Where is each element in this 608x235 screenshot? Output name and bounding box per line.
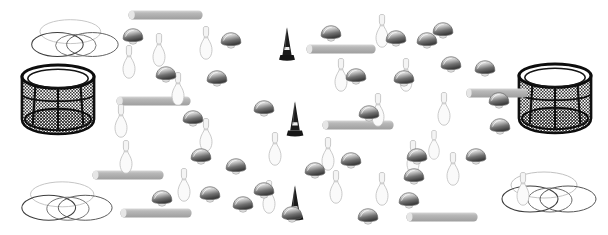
bowling-pin-icon: [111, 104, 131, 138]
mesh-basket-icon: [512, 62, 598, 136]
mushroom-cap-icon: [225, 158, 247, 175]
bowling-pin-icon: [149, 33, 169, 67]
mushroom-cap-icon: [320, 25, 342, 42]
mushroom-cap-icon: [304, 162, 326, 179]
mushroom-cap-icon: [232, 196, 254, 213]
mushroom-cap-icon: [122, 28, 144, 45]
bowling-pin-icon: [326, 170, 346, 204]
mushroom-cap-icon: [358, 105, 380, 122]
mushroom-cap-icon: [253, 100, 275, 117]
mushroom-cap-icon: [385, 30, 407, 47]
bowling-pin-icon: [265, 132, 285, 166]
mesh-basket-icon: [16, 63, 100, 137]
bowling-pin-icon: [174, 168, 194, 202]
mushroom-cap-icon: [190, 148, 212, 165]
mushroom-cap-icon: [488, 92, 510, 109]
mushroom-cap-icon: [182, 110, 204, 127]
mushroom-cap-icon: [253, 182, 275, 199]
mushroom-cap-icon: [393, 70, 415, 87]
mushroom-cap-icon: [416, 32, 438, 49]
bowling-pin-icon: [119, 45, 139, 79]
hoop-rings-icon: [16, 178, 116, 226]
mushroom-cap-icon: [206, 70, 228, 87]
mushroom-cap-icon: [220, 32, 242, 49]
traffic-cone-icon: [282, 100, 308, 138]
bowling-pin-icon: [116, 140, 136, 174]
gray-bar-icon: [406, 212, 478, 222]
mushroom-cap-icon: [440, 56, 462, 73]
traffic-cone-icon: [274, 26, 300, 62]
mushroom-cap-icon: [340, 152, 362, 169]
mushroom-cap-icon: [406, 148, 428, 165]
mushroom-cap-icon: [489, 118, 511, 135]
gray-bar-icon: [120, 208, 192, 218]
mushroom-cap-icon: [403, 168, 425, 185]
gray-bar-icon: [128, 10, 203, 20]
mushroom-cap-icon: [398, 192, 420, 209]
gray-bar-icon: [306, 44, 376, 54]
mushroom-cap-icon: [199, 186, 221, 203]
bowling-pin-icon: [372, 172, 392, 206]
mushroom-cap-icon: [281, 206, 303, 223]
mushroom-cap-icon: [465, 148, 487, 165]
mushroom-cap-icon: [155, 66, 177, 83]
object-scene-canvas: [0, 0, 608, 235]
mushroom-cap-icon: [474, 60, 496, 77]
bowling-pin-icon: [434, 92, 454, 126]
mushroom-cap-icon: [151, 190, 173, 207]
bowling-pin-icon: [443, 152, 463, 186]
bowling-pin-icon: [196, 26, 216, 60]
hoop-rings-icon: [28, 16, 120, 62]
bowling-pin-icon: [513, 172, 533, 206]
mushroom-cap-icon: [357, 208, 379, 225]
mushroom-cap-icon: [345, 68, 367, 85]
